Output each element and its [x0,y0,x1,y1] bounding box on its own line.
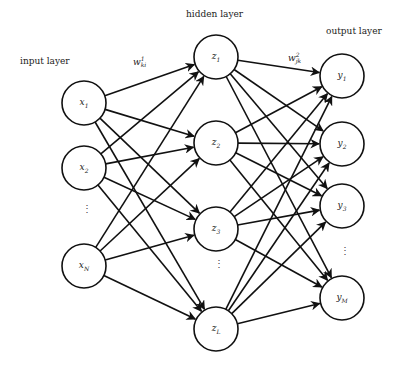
output-layer-label: output layer [326,26,382,36]
edge-z1-yM [226,76,331,277]
node-label-z3: z3 [212,223,221,235]
output-ellipsis-icon: ⋮ [340,249,344,253]
node-label-y3: y3 [338,200,347,212]
weight-label-w1: w1ki [133,56,146,68]
edge-zL-yM [237,303,319,323]
input-layer-label: input layer [20,56,70,66]
edge-z1-y1 [238,60,320,72]
node-label-zL: zL [212,323,221,335]
node-label-y1: y1 [338,70,347,82]
node-label-x1: x1 [80,97,89,109]
edge-z2-y2 [238,143,319,144]
weight-label-w2: w2jk [288,52,301,64]
hidden-ellipsis-icon: ⋮ [214,262,218,266]
node-label-z1: z1 [212,51,221,63]
edge-z3-y3 [238,210,320,225]
edge-xN-zL [104,275,195,319]
node-label-yM: yM [336,292,347,304]
edge-z2-y1 [235,87,321,133]
edge-z3-y2 [234,157,323,217]
connection-edges [95,60,332,323]
node-label-y2: y2 [338,138,347,150]
hidden-layer-label: hidden layer [186,9,243,19]
edge-xN-z3 [105,235,194,260]
edge-zL-y2 [228,163,329,311]
node-label-xN: xN [79,260,89,272]
edge-x1-z1 [105,65,195,96]
node-label-x2: x2 [80,162,89,174]
edge-z1-y2 [234,70,323,131]
node-label-z2: z2 [212,137,221,149]
input-ellipsis-icon: ⋮ [82,207,86,211]
